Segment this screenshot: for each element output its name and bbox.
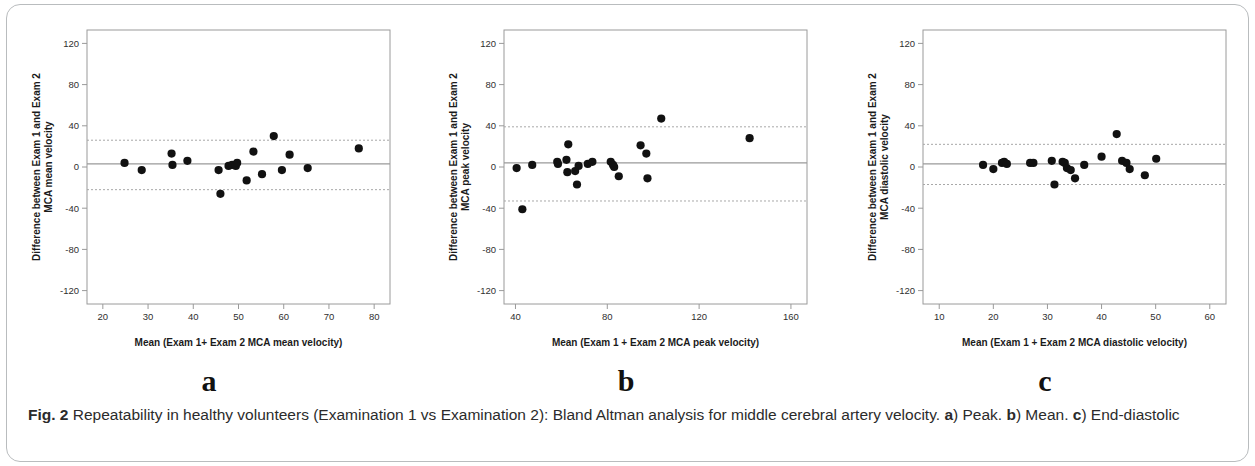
y-tick-label: 120 (480, 38, 496, 49)
data-point (746, 134, 754, 142)
data-point (304, 164, 312, 172)
x-tick-label: 10 (934, 311, 945, 322)
y-tick-label: 80 (485, 79, 496, 90)
y-tick-label: 40 (68, 120, 79, 131)
data-point (215, 166, 223, 174)
panel-b-letter: b (417, 364, 835, 398)
data-point (518, 205, 526, 213)
caption-body-4: ) End-diastolic (1081, 406, 1179, 423)
data-point (1080, 161, 1088, 169)
x-tick-label: 80 (602, 311, 613, 322)
y-tick-label: -120 (477, 285, 496, 296)
data-point (528, 161, 536, 169)
data-point (615, 172, 623, 180)
data-point (168, 161, 176, 169)
panel-c-plot: 12080400-40-80-120102030405060Mean (Exam… (836, 0, 1254, 360)
y-tick-label: -40 (65, 203, 79, 214)
data-point (138, 166, 146, 174)
x-axis-title: Mean (Exam 1 + Exam 2 MCA diastolic velo… (962, 337, 1187, 348)
data-point (183, 157, 191, 165)
data-point (1141, 171, 1149, 179)
y-tick-label: 120 (899, 38, 915, 49)
y-axis-title-line1: Difference between Exam 1 and Exam 2 (31, 73, 42, 261)
data-point (278, 166, 286, 174)
figure-panels: 12080400-40-80-12020304050607080Mean (Ex… (0, 0, 1255, 400)
data-point (643, 174, 651, 182)
caption-body-3: ) Mean. (1016, 406, 1073, 423)
data-point (286, 151, 294, 159)
y-tick-label: 40 (904, 120, 915, 131)
data-point (989, 165, 997, 173)
data-point (243, 176, 251, 184)
x-tick-label: 20 (98, 311, 109, 322)
panel-b-plot: 12080400-40-80-1204080120160Mean (Exam 1… (417, 0, 835, 360)
x-axis-title: Mean (Exam 1 + Exam 2 MCA peak velocity) (552, 337, 759, 348)
panel-a-plot: 12080400-40-80-12020304050607080Mean (Ex… (0, 0, 418, 360)
data-point (1113, 130, 1121, 138)
y-tick-label: 80 (904, 79, 915, 90)
data-point (249, 147, 257, 155)
y-tick-label: 40 (485, 120, 496, 131)
data-point (636, 141, 644, 149)
data-point (1152, 155, 1160, 163)
data-point (1050, 180, 1058, 188)
data-point (562, 156, 570, 164)
data-point (270, 132, 278, 140)
y-tick-label: -40 (901, 203, 915, 214)
panel-a: 12080400-40-80-12020304050607080Mean (Ex… (0, 0, 418, 400)
plot-frame (504, 30, 807, 304)
x-axis-title: Mean (Exam 1+ Exam 2 MCA mean velocity) (135, 337, 343, 348)
y-tick-label: -120 (60, 285, 79, 296)
caption-figure-label: Fig. 2 (28, 406, 68, 423)
y-tick-label: 0 (491, 161, 496, 172)
data-point (1097, 153, 1105, 161)
y-tick-label: 0 (910, 161, 915, 172)
data-point (564, 140, 572, 148)
data-point (1003, 160, 1011, 168)
y-axis-title-line1: Difference between Exam 1 and Exam 2 (867, 73, 878, 261)
panel-b: 12080400-40-80-1204080120160Mean (Exam 1… (417, 0, 835, 400)
y-tick-label: -80 (901, 244, 915, 255)
x-tick-label: 40 (1096, 311, 1107, 322)
data-point (657, 114, 665, 122)
caption-body-1: Repeatability in healthy volunteers (Exa… (68, 406, 944, 423)
caption-body-2: ) Peak. (953, 406, 1006, 423)
panel-a-letter: a (0, 364, 418, 398)
figure-caption: Fig. 2 Repeatability in healthy voluntee… (28, 404, 1228, 426)
y-tick-label: -80 (482, 244, 496, 255)
x-tick-label: 30 (143, 311, 154, 322)
x-tick-label: 40 (188, 311, 199, 322)
y-axis-title-line1: Difference between Exam 1 and Exam 2 (448, 73, 459, 261)
data-point (563, 168, 571, 176)
y-tick-label: -40 (482, 203, 496, 214)
data-point (167, 150, 175, 158)
data-point (575, 162, 583, 170)
data-point (1067, 166, 1075, 174)
y-tick-label: 80 (68, 79, 79, 90)
data-point (258, 170, 266, 178)
caption-sublabel-b: b (1006, 406, 1015, 423)
caption-sublabel-a: a (944, 406, 953, 423)
data-point (355, 144, 363, 152)
y-axis-title-line2: MCA mean velocity (43, 121, 54, 213)
y-tick-label: -80 (65, 244, 79, 255)
x-tick-label: 70 (324, 311, 335, 322)
x-tick-label: 40 (510, 311, 521, 322)
x-tick-label: 30 (1042, 311, 1053, 322)
panel-c: 12080400-40-80-120102030405060Mean (Exam… (836, 0, 1254, 400)
x-tick-label: 120 (691, 311, 707, 322)
data-point (610, 163, 618, 171)
x-tick-label: 60 (1204, 311, 1215, 322)
data-point (1029, 159, 1037, 167)
x-tick-label: 50 (233, 311, 244, 322)
data-point (573, 180, 581, 188)
data-point (233, 159, 241, 167)
y-tick-label: -120 (896, 285, 915, 296)
y-tick-label: 0 (74, 161, 79, 172)
x-tick-label: 50 (1150, 311, 1161, 322)
data-point (216, 190, 224, 198)
x-tick-label: 60 (278, 311, 289, 322)
x-tick-label: 80 (369, 311, 380, 322)
y-axis-title-line2: MCA peak velocity (460, 123, 471, 211)
data-point (642, 150, 650, 158)
